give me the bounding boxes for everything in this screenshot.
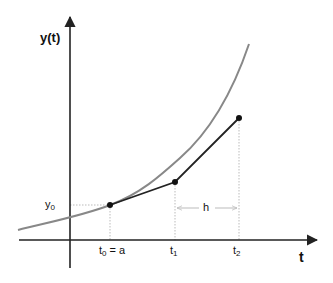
t1-sub: 1 — [173, 249, 177, 258]
x-axis-label: t — [299, 250, 304, 264]
point-t0 — [107, 202, 113, 208]
t2-sub: 2 — [236, 249, 240, 258]
y0-sub: 0 — [51, 203, 55, 212]
t1-label: t1 — [170, 245, 178, 258]
point-t2 — [236, 115, 242, 121]
step-h-label: h — [203, 202, 209, 213]
t0-suffix: = a — [107, 244, 126, 256]
y-axis-label: y(t) — [40, 31, 60, 44]
t2-label: t2 — [233, 245, 241, 258]
t0-label: t0 = a — [99, 245, 125, 258]
y0-label: y0 — [45, 199, 55, 212]
point-t1 — [172, 179, 178, 185]
